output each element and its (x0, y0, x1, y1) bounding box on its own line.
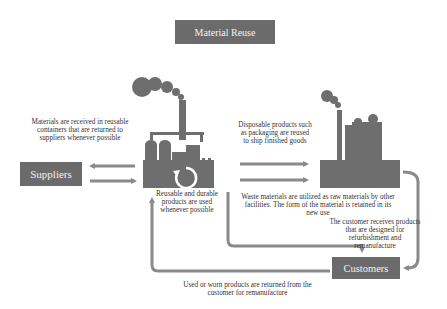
customer-receives-annotation: The customer receives products that are … (328, 218, 422, 250)
customers-node: Customers (332, 257, 400, 279)
disposable-annotation: Disposable products such as packaging ar… (238, 121, 312, 145)
other-facility-icon (320, 90, 400, 188)
durable-annotation: Reusable and durable products are used w… (152, 190, 222, 214)
title-box: Material Reuse (175, 20, 275, 44)
returned-annotation: Used or worn products are returned from … (175, 281, 320, 297)
factory-icon (132, 77, 214, 188)
suppliers-node: Suppliers (20, 162, 82, 186)
containers-annotation: Materials are received in reusable conta… (30, 118, 130, 142)
waste-annotation: Waste materials are utilized as raw mate… (238, 193, 398, 217)
